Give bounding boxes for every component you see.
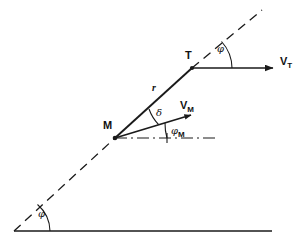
label-phi-missile-sub: M (178, 130, 185, 139)
label-missile-velocity-vector: VM (180, 100, 194, 114)
label-angle-phi-target: φ (217, 44, 224, 54)
label-target-velocity-vector: VT (280, 56, 292, 70)
target-vertex-dot (190, 66, 194, 70)
label-angle-phi-ground: φ (38, 209, 45, 219)
label-angle-phi-missile: φM (171, 126, 185, 139)
figure-canvas (0, 0, 304, 245)
label-phi-missile-base: φ (171, 125, 178, 136)
label-range-r: r (152, 83, 156, 93)
label-missile-velocity-sub: M (187, 105, 194, 114)
label-angle-delta: δ (156, 108, 162, 118)
label-target-point: T (185, 50, 192, 61)
label-missile-point: M (103, 120, 112, 131)
missile-vertex-dot (113, 136, 118, 141)
los-dashed-lower (14, 138, 115, 231)
los-dashed-upper (192, 10, 262, 68)
label-target-velocity-sub: T (287, 61, 292, 70)
engagement-geometry-figure: M T r VT VM φ φ δ φM (0, 0, 304, 245)
